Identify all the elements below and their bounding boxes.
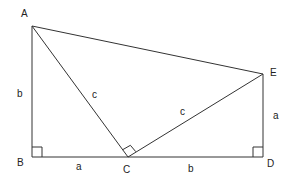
vertex-label-b: B <box>17 157 24 168</box>
trapezoid-diagram: A B C D E b a b a c c <box>0 0 293 182</box>
segment-ae <box>32 26 263 74</box>
side-label-ac: c <box>92 89 97 100</box>
right-angle-marker-c <box>123 145 136 151</box>
vertex-label-a: A <box>21 8 28 19</box>
segment-ce <box>128 74 263 157</box>
side-label-bc: a <box>76 161 82 172</box>
side-label-ce: c <box>180 106 185 117</box>
side-label-cd: b <box>188 163 194 174</box>
right-angle-marker-d <box>253 147 263 157</box>
vertex-label-e: E <box>270 67 277 78</box>
side-label-de: a <box>273 110 279 121</box>
right-angle-marker-b <box>32 147 42 157</box>
side-label-ab: b <box>17 88 23 99</box>
segment-ac <box>32 26 128 157</box>
vertex-label-c: C <box>123 164 130 175</box>
vertex-label-d: D <box>267 158 274 169</box>
